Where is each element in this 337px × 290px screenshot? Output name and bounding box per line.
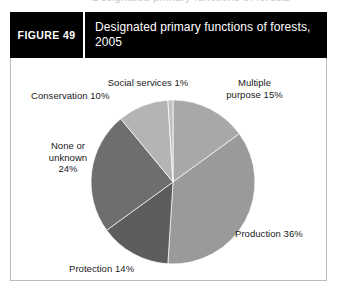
pie-label-none-or-unknown: None or unknown 24% <box>37 140 99 175</box>
pie-label-production: Production 36% <box>235 228 325 240</box>
pie-label-social-services: Social services 1% <box>83 77 213 89</box>
figure-title-cell: Designated primary functions of forests,… <box>85 12 327 58</box>
page-bleed-top: Designated primary functions of forests <box>0 0 337 9</box>
page-bleed-text: Designated primary functions of forests <box>92 0 291 3</box>
figure-number-cell: FIGURE 49 <box>10 12 85 58</box>
figure-card: FIGURE 49 Designated primary functions o… <box>10 12 327 281</box>
figure-header: FIGURE 49 Designated primary functions o… <box>10 12 327 58</box>
pie-label-conservation: Conservation 10% <box>31 90 151 102</box>
chart-panel: Social services 1% Conservation 10% Mult… <box>10 58 327 281</box>
figure-number-label: FIGURE 49 <box>18 29 76 41</box>
pie-chart: Social services 1% Conservation 10% Mult… <box>11 58 326 279</box>
pie-label-protection: Protection 14% <box>69 263 169 275</box>
figure-title: Designated primary functions of forests,… <box>95 20 317 50</box>
pie-label-multiple-purpose: Multiple purpose 15% <box>207 77 302 100</box>
